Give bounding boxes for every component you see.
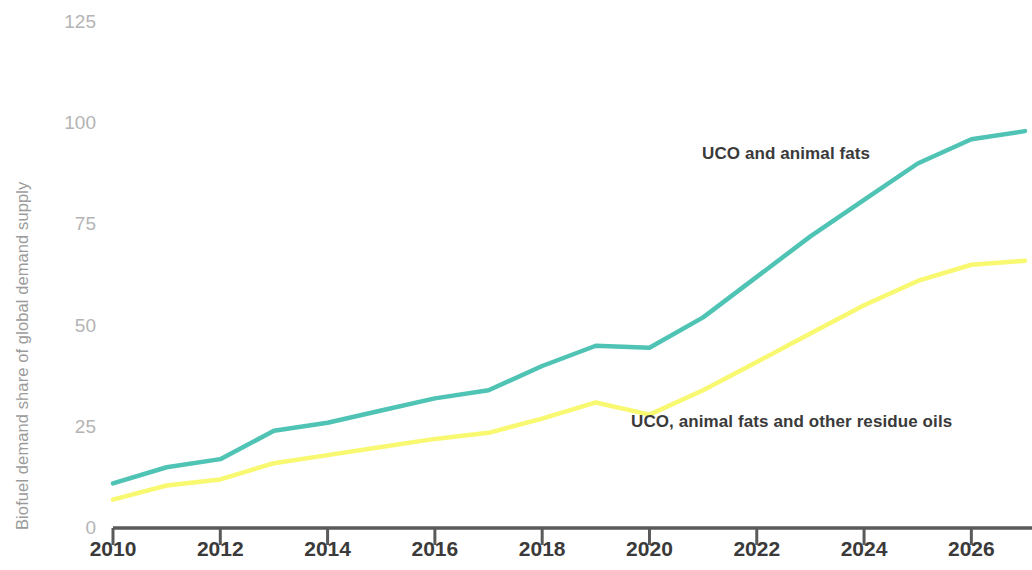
x-tick-label: 2018: [497, 538, 587, 559]
x-tick-label: 2026: [926, 538, 1016, 559]
data-series-group: [113, 131, 1025, 500]
x-tick-label: 2010: [68, 538, 158, 559]
series-annotation-label: UCO and animal fats: [702, 144, 870, 164]
x-tick-label: 2020: [604, 538, 694, 559]
x-tick-label: 2014: [283, 538, 373, 559]
series-annotation-label: UCO, animal fats and other residue oils: [631, 412, 952, 432]
x-tick-label: 2016: [390, 538, 480, 559]
x-tick-label: 2024: [819, 538, 909, 559]
x-tick-label: 2022: [712, 538, 802, 559]
series-line: [113, 261, 1025, 500]
line-chart: Biofuel demand share of global demand su…: [0, 0, 1032, 570]
x-tick-label: 2012: [175, 538, 265, 559]
plot-area: [0, 0, 1032, 570]
